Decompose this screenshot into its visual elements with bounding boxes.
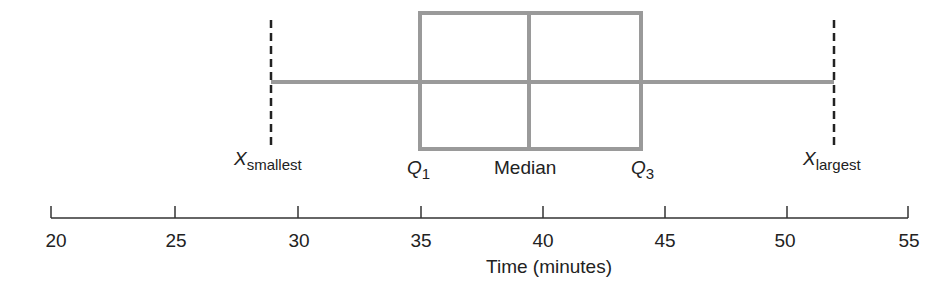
x-largest-main: X [803,148,816,169]
tick-label-55: 55 [898,230,919,252]
tick-label-40: 40 [532,230,553,252]
q3-main: Q [631,157,646,178]
tick-label-35: 35 [410,230,431,252]
tick-label-25: 25 [165,230,186,252]
q3-label: Q3 [631,157,654,179]
q3-sub: 3 [646,165,654,182]
box-plot-chart [0,0,950,284]
q1-main: Q [407,157,422,178]
x-smallest-main: X [234,148,247,169]
tick-label-45: 45 [654,230,675,252]
q1-label: Q1 [407,157,430,179]
tick-label-50: 50 [774,230,795,252]
x-largest-sub: largest [816,156,861,173]
x-largest-label: Xlargest [803,148,861,170]
tick-label-20: 20 [45,230,66,252]
median-label: Median [494,157,556,179]
tick-label-30: 30 [288,230,309,252]
q1-sub: 1 [422,165,430,182]
x-smallest-label: Xsmallest [234,148,302,170]
x-axis-title: Time (minutes) [486,256,612,278]
x-smallest-sub: smallest [247,156,302,173]
x-axis-ticks [51,206,908,218]
